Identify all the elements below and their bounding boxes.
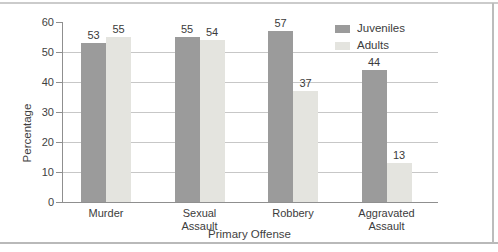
legend-swatch-icon (335, 25, 350, 33)
bar-value-label: 13 (387, 149, 412, 161)
bar-juveniles-1 (81, 43, 106, 202)
y-tick-label-0: 0 (26, 196, 54, 208)
legend-swatch-icon (335, 42, 350, 50)
y-tick-label-40: 40 (26, 76, 54, 88)
legend-label: Adults (357, 39, 389, 52)
bar-value-label: 37 (293, 77, 318, 89)
right-rule (492, 3, 494, 243)
legend-row-juveniles: Juveniles (335, 22, 405, 35)
figure: Percentage 5355Murder5554Sexual Assault5… (0, 0, 498, 252)
y-tick-label-20: 20 (26, 136, 54, 148)
bar-value-label: 54 (200, 26, 225, 38)
bar-adults-1 (106, 37, 131, 202)
top-rule (0, 2, 498, 4)
y-tick-label-50: 50 (26, 46, 54, 58)
bar-value-label: 44 (362, 56, 387, 68)
bar-juveniles-3 (268, 31, 293, 202)
legend-row-adults: Adults (335, 39, 405, 52)
category-label: Murder (74, 207, 138, 220)
bar-value-label: 53 (81, 29, 106, 41)
bar-juveniles-2 (175, 37, 200, 202)
bar-juveniles-4 (362, 70, 387, 202)
bar-adults-4 (387, 163, 412, 202)
bar-value-label: 55 (175, 23, 200, 35)
bottom-rule (0, 242, 498, 244)
bar-value-label: 57 (268, 17, 293, 29)
bar-value-label: 55 (106, 23, 131, 35)
category-label: Robbery (261, 207, 325, 220)
bar-adults-2 (200, 40, 225, 202)
y-tick-label-10: 10 (26, 166, 54, 178)
legend-label: Juveniles (357, 22, 405, 35)
y-tick-label-30: 30 (26, 106, 54, 118)
bar-adults-3 (293, 91, 318, 202)
x-axis-title: Primary Offense (62, 228, 437, 240)
y-tick-label-60: 60 (26, 16, 54, 28)
legend: JuvenilesAdults (335, 22, 405, 56)
